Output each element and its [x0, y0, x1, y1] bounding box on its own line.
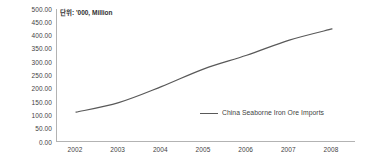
x-tick-label: 2003 — [98, 146, 138, 154]
unit-annotation: 단위: '000, Million — [60, 9, 113, 17]
x-tick-label: 2008 — [311, 146, 351, 154]
y-tick-label: 50.00 — [0, 125, 52, 132]
x-tick-label: 2004 — [140, 146, 180, 154]
y-tick-label: 150.00 — [0, 99, 52, 106]
x-axis: 2002200320042005200620072008 — [0, 146, 372, 158]
y-axis: 500.00450.00400.00350.00300.00250.00200.… — [0, 0, 52, 166]
x-tick-label: 2002 — [55, 146, 95, 154]
y-tick-label: 300.00 — [0, 59, 52, 66]
x-tick-label: 2006 — [226, 146, 266, 154]
legend-label: China Seaborne Iron Ore Imports — [222, 109, 324, 117]
y-tick-label: 0.00 — [0, 139, 52, 146]
plot-area — [56, 9, 355, 142]
line-chart: 500.00450.00400.00350.00300.00250.00200.… — [0, 0, 372, 166]
y-tick-label: 350.00 — [0, 45, 52, 52]
y-tick-label: 450.00 — [0, 19, 52, 26]
x-tick-label: 2005 — [183, 146, 223, 154]
y-tick-label: 500.00 — [0, 6, 52, 13]
x-tick-label: 2007 — [268, 146, 308, 154]
y-tick-label: 400.00 — [0, 32, 52, 39]
y-tick-label: 200.00 — [0, 85, 52, 92]
y-tick-label: 100.00 — [0, 112, 52, 119]
legend-swatch-icon — [200, 113, 218, 114]
y-tick-label: 250.00 — [0, 72, 52, 79]
series-line-china-seaborne-iron-ore-imports — [57, 9, 356, 142]
legend: China Seaborne Iron Ore Imports — [200, 109, 324, 117]
